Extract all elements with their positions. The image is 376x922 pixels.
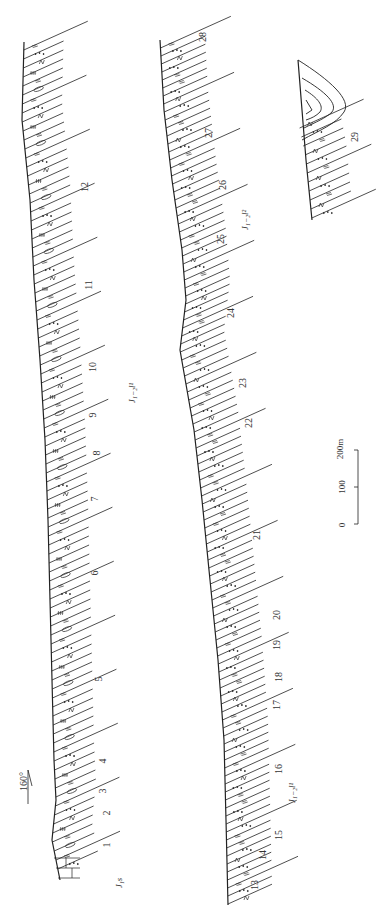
formation-label-j12l2: J₁₋₂l² [240, 210, 250, 230]
layer-label-7: 7 [90, 497, 100, 502]
layer-label-28: 28 [198, 32, 208, 42]
scale-label-0: 0 [337, 523, 347, 528]
layer-label-8: 8 [92, 451, 102, 456]
layer-label-3: 3 [98, 789, 108, 794]
direction-label: 160° [18, 772, 29, 791]
layer-label-2: 2 [102, 811, 112, 816]
layer-label-22: 22 [244, 418, 254, 428]
formation-label-j1s: J₁s [114, 878, 124, 889]
layer-label-17: 17 [272, 700, 282, 710]
scale-bar [354, 450, 358, 524]
right-fold [298, 60, 376, 220]
layer-label-9: 9 [88, 413, 98, 418]
layer-label-21: 21 [252, 530, 262, 540]
layer-label-23: 23 [238, 378, 248, 388]
layer-label-5: 5 [94, 677, 104, 682]
layer-label-13: 13 [250, 880, 260, 890]
layer-label-29: 29 [350, 132, 360, 142]
layer-label-20: 20 [272, 610, 282, 620]
scale-label-200m: 200m [335, 439, 345, 460]
layer-label-1: 1 [102, 843, 112, 848]
layer-label-15: 15 [274, 830, 284, 840]
layer-label-11: 11 [84, 280, 94, 290]
layer-label-10: 10 [88, 362, 98, 372]
layer-label-4: 4 [98, 759, 108, 764]
layer-label-18: 18 [274, 672, 284, 682]
middle-profile-line [160, 40, 228, 905]
formation-label-j12l1: J₁₋₂l¹ [127, 383, 137, 403]
layer-label-6: 6 [90, 571, 100, 576]
left-profile-line [22, 42, 60, 880]
layer-label-19: 19 [272, 640, 282, 650]
layer-label-24: 24 [226, 308, 236, 318]
layer-label-12: 12 [80, 182, 90, 192]
layer-label-14: 14 [258, 850, 268, 860]
section-drawing [0, 0, 376, 922]
layer-label-25: 25 [216, 234, 226, 244]
layer-label-26: 26 [218, 180, 228, 190]
scale-label-100: 100 [337, 480, 347, 494]
left-section [22, 21, 120, 880]
layer-label-16: 16 [274, 764, 284, 774]
layer-label-27: 27 [204, 128, 214, 138]
formation-label-j12l1-lower: J₁₋₂l¹ [287, 783, 297, 803]
